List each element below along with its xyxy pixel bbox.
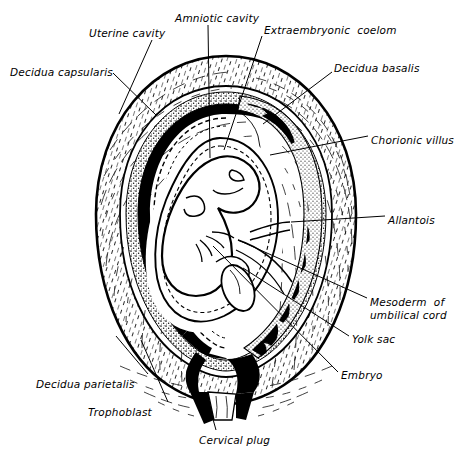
label-amniotic-cavity: Amniotic cavity [175,12,259,24]
label-extraembryonic-coelom: Extraembryonic coelom [264,24,397,36]
label-mesoderm-umbilical-cord: Mesoderm of umbilical cord [370,296,447,322]
label-decidua-parietalis: Decidua parietalis [36,378,135,390]
label-allantois: Allantois [388,214,435,226]
label-decidua-basalis: Decidua basalis [334,62,420,74]
label-uterine-cavity: Uterine cavity [89,27,165,39]
label-decidua-capsularis: Decidua capsularis [10,66,113,78]
label-yolk-sac: Yolk sac [352,333,395,345]
label-embryo: Embryo [341,369,383,381]
label-trophoblast: Trophoblast [88,406,152,418]
label-cervical-plug: Cervical plug [199,434,270,446]
label-chorionic-villus: Chorionic villus [371,134,454,146]
